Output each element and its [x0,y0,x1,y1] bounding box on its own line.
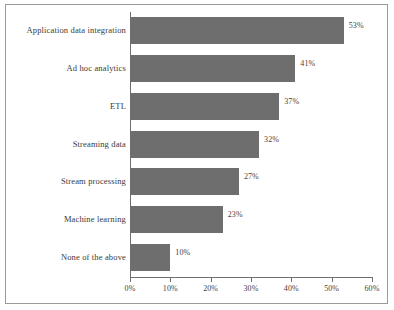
x-tick-mark [211,278,212,282]
category-label: Ad hoc analytics [4,63,126,73]
category-label: ETL [4,101,126,111]
category-label: Machine learning [4,214,126,224]
bar-slot: 41% [130,50,372,88]
x-tick-mark [130,278,131,282]
x-tick-label: 10% [163,284,178,293]
plot-area: 53%41%37%32%27%23%10% [130,12,372,277]
bar [130,93,279,120]
x-tick-label: 30% [244,284,259,293]
bar-slot: 27% [130,163,372,201]
bar [130,206,223,233]
x-tick-label: 20% [203,284,218,293]
bar [130,131,259,158]
bar [130,55,295,82]
x-tick-mark [291,278,292,282]
category-axis-labels: Application data integrationAd hoc analy… [0,12,126,277]
bar-value-label: 53% [349,21,364,30]
bar-slot: 37% [130,88,372,126]
bar-value-label: 23% [228,210,243,219]
x-tick-label: 40% [284,284,299,293]
bar-value-label: 37% [284,97,299,106]
bar-value-label: 41% [300,59,315,68]
category-label: Streaming data [4,139,126,149]
x-tick-mark [170,278,171,282]
x-tick-label: 60% [365,284,380,293]
x-tick-label: 0% [125,284,136,293]
x-tick-label: 50% [324,284,339,293]
bar-value-label: 27% [244,172,259,181]
bar-value-label: 32% [264,135,279,144]
x-tick-mark [251,278,252,282]
bar [130,17,344,44]
bar-slot: 23% [130,201,372,239]
bar-slot: 53% [130,12,372,50]
bar-series: 53%41%37%32%27%23%10% [130,12,372,277]
category-label: Stream processing [4,176,126,186]
bar-slot: 10% [130,239,372,277]
category-label: None of the above [4,252,126,262]
x-tick-mark [372,278,373,282]
bar-slot: 32% [130,126,372,164]
x-tick-mark [332,278,333,282]
bar-value-label: 10% [175,248,190,257]
chart-figure: Application data integrationAd hoc analy… [0,0,394,310]
category-label: Application data integration [4,25,126,35]
bar [130,168,239,195]
bar [130,244,170,271]
